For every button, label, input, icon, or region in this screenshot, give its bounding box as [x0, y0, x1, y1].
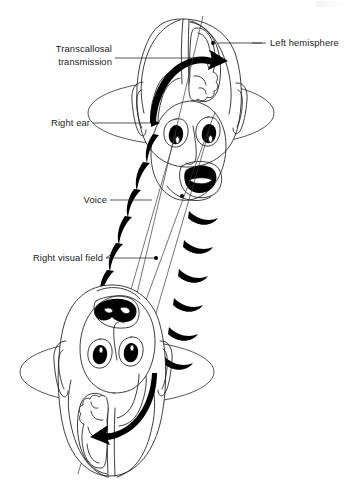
scan-artifact	[316, 1, 350, 7]
label-transcallosal-line2: transmission	[58, 56, 112, 67]
lower-right-eye-highlight	[99, 347, 103, 353]
upper-right-eye-highlight	[176, 137, 180, 144]
voice-sound-waves-left	[100, 134, 159, 299]
label-right-ear: Right ear	[51, 117, 90, 128]
diagram-canvas: Transcallosal transmission Left hemisphe…	[0, 0, 354, 491]
voice-reference-dot	[180, 194, 184, 198]
transcallosal-transmission-diagram: Transcallosal transmission Left hemisphe…	[0, 0, 354, 491]
label-voice: Voice	[84, 194, 107, 205]
left-hemisphere-marker-dot	[211, 41, 215, 45]
upper-left-eye-highlight	[209, 136, 213, 143]
label-right-visual-field: Right visual field	[33, 252, 103, 263]
label-left-hemisphere: Left hemisphere	[270, 37, 339, 48]
right-visual-field-marker-dot	[154, 256, 158, 260]
voice-sound-waves-right	[163, 211, 218, 370]
label-transcallosal-line1: Transcallosal	[56, 43, 112, 54]
lower-left-eye-highlight	[130, 345, 134, 351]
lower-figure-group	[20, 285, 214, 477]
